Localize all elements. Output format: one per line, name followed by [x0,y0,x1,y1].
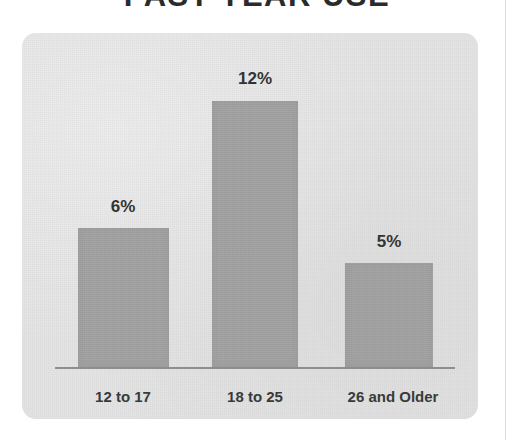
x-axis-line [55,367,455,369]
plot-area: 6% 12% 5% 12 to 17 18 to 25 26 and Older [22,33,478,419]
x-axis-label-18-to-25: 18 to 25 [195,388,315,405]
bar-value-label-12-to-17: 6% [83,197,163,217]
scan-page-edge-line [505,0,506,440]
bar-12-to-17 [78,228,169,367]
chart-title: PAST YEAR USE [0,0,514,16]
chart-panel: 6% 12% 5% 12 to 17 18 to 25 26 and Older [22,33,478,419]
bar-value-label-18-to-25: 12% [215,69,295,89]
bar-value-label-26-and-older: 5% [349,232,429,252]
bar-26-and-older [345,263,433,367]
x-axis-label-12-to-17: 12 to 17 [63,388,183,405]
x-axis-label-26-and-older: 26 and Older [323,388,463,405]
bar-18-to-25 [212,101,298,367]
